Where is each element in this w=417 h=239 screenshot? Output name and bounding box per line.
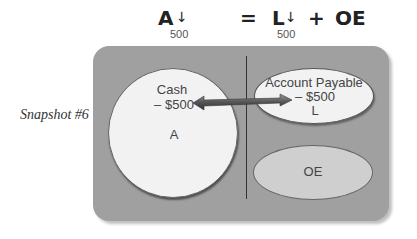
double-arrow-icon — [0, 0, 417, 239]
transfer-arrow — [193, 94, 292, 110]
